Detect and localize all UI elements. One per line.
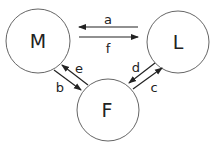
node-m-label: M <box>30 30 46 52</box>
node-l-label: L <box>173 31 184 53</box>
edge-c-label: c <box>150 80 157 95</box>
edge-e-label: e <box>75 61 83 76</box>
node-f-label: F <box>102 99 113 121</box>
edge-f-label: f <box>106 41 111 56</box>
edge-a-label: a <box>104 12 112 27</box>
edge-b-label: b <box>56 80 64 95</box>
state-diagram: M L F a f e b d c <box>0 0 211 148</box>
edge-d-label: d <box>132 60 140 75</box>
